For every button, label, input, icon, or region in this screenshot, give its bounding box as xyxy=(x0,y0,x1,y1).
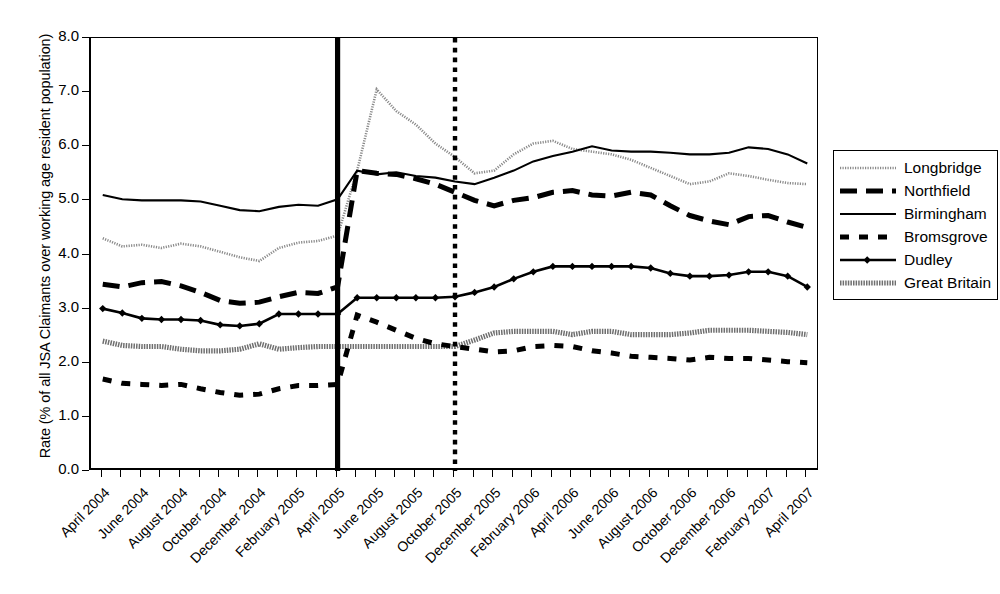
x-tick-mark xyxy=(707,470,708,477)
legend-item-northfield[interactable]: Northfield xyxy=(839,179,991,202)
x-tick-mark xyxy=(453,470,454,477)
x-tick-mark xyxy=(433,470,434,477)
y-tick-mark xyxy=(82,470,89,471)
data-point-marker xyxy=(608,263,615,270)
x-tick-mark xyxy=(355,470,356,477)
x-tick-mark xyxy=(786,470,787,477)
data-point-marker xyxy=(627,263,634,270)
data-point-marker xyxy=(197,317,204,324)
x-tick-mark xyxy=(336,470,337,477)
data-point-marker xyxy=(745,268,752,275)
x-tick-mark xyxy=(120,470,121,477)
legend-item-great-britain[interactable]: Great Britain xyxy=(839,271,991,294)
legend-swatch-icon xyxy=(839,184,897,198)
x-tick-mark xyxy=(629,470,630,477)
data-point-marker xyxy=(569,263,576,270)
x-tick-mark xyxy=(140,470,141,477)
y-tick-label: 4.0 xyxy=(31,244,79,261)
legend-swatch-icon xyxy=(839,253,897,267)
y-tick-mark xyxy=(82,91,89,92)
legend-swatch-icon xyxy=(839,161,897,175)
x-tick-mark xyxy=(159,470,160,477)
y-tick-mark xyxy=(82,145,89,146)
data-point-marker xyxy=(471,289,478,296)
x-tick-mark xyxy=(492,470,493,477)
x-tick-mark xyxy=(747,470,748,477)
legend-item-label: Great Britain xyxy=(904,275,991,291)
y-tick-label: 6.0 xyxy=(31,135,79,152)
x-tick-mark xyxy=(649,470,650,477)
x-tick-mark xyxy=(766,470,767,477)
data-point-marker xyxy=(764,268,771,275)
x-tick-mark xyxy=(570,470,571,477)
legend-item-label: Longbridge xyxy=(904,160,982,176)
data-point-marker xyxy=(432,294,439,301)
data-point-marker xyxy=(667,270,674,277)
data-point-marker xyxy=(236,322,243,329)
x-tick-mark xyxy=(688,470,689,477)
data-point-marker xyxy=(725,271,732,278)
legend-item-label: Dudley xyxy=(904,252,952,268)
data-point-marker xyxy=(706,272,713,279)
data-point-marker xyxy=(119,309,126,316)
x-tick-mark xyxy=(473,470,474,477)
y-tick-mark xyxy=(82,308,89,309)
y-tick-label: 1.0 xyxy=(31,406,79,423)
y-tick-mark xyxy=(82,416,89,417)
data-point-marker xyxy=(314,310,321,317)
x-tick-mark xyxy=(238,470,239,477)
legend-swatch-icon xyxy=(839,230,897,244)
y-tick-mark xyxy=(82,362,89,363)
data-point-marker xyxy=(158,316,165,323)
x-tick-mark xyxy=(257,470,258,477)
x-tick-mark xyxy=(414,470,415,477)
data-point-marker xyxy=(216,321,223,328)
y-tick-mark xyxy=(82,254,89,255)
x-tick-mark xyxy=(179,470,180,477)
legend-item-longbridge[interactable]: Longbridge xyxy=(839,156,991,179)
data-point-marker xyxy=(99,305,106,312)
data-point-marker xyxy=(549,263,556,270)
series-canvas xyxy=(91,38,820,471)
x-tick-mark xyxy=(805,470,806,477)
data-point-marker xyxy=(686,272,693,279)
legend-item-label: Birmingham xyxy=(904,206,987,222)
data-point-marker xyxy=(393,294,400,301)
data-point-marker xyxy=(530,268,537,275)
x-tick-mark xyxy=(296,470,297,477)
x-tick-mark xyxy=(668,470,669,477)
data-point-marker xyxy=(510,275,517,282)
data-point-marker xyxy=(647,264,654,271)
y-tick-label: 2.0 xyxy=(31,352,79,369)
legend-item-label: Bromsgrove xyxy=(904,229,988,245)
data-point-marker xyxy=(177,316,184,323)
y-tick-label: 5.0 xyxy=(31,189,79,206)
x-tick-mark xyxy=(199,470,200,477)
legend-swatch-icon xyxy=(839,207,897,221)
x-tick-mark xyxy=(277,470,278,477)
y-tick-label: 0.0 xyxy=(31,460,79,477)
legend-item-label: Northfield xyxy=(904,183,970,199)
x-tick-mark xyxy=(590,470,591,477)
legend-item-dudley[interactable]: Dudley xyxy=(839,248,991,271)
x-tick-mark xyxy=(531,470,532,477)
y-tick-label: 8.0 xyxy=(31,27,79,44)
x-tick-mark xyxy=(316,470,317,477)
x-tick-mark xyxy=(394,470,395,477)
x-tick-mark xyxy=(218,470,219,477)
x-tick-mark xyxy=(610,470,611,477)
data-point-marker xyxy=(295,310,302,317)
data-point-marker xyxy=(588,263,595,270)
chart-root: Rate (% of all JSA Claimants over workin… xyxy=(0,0,1000,594)
legend-item-birmingham[interactable]: Birmingham xyxy=(839,202,991,225)
x-tick-mark xyxy=(551,470,552,477)
data-point-marker xyxy=(412,294,419,301)
y-tick-mark xyxy=(82,199,89,200)
legend-swatch-icon xyxy=(839,276,897,290)
y-tick-mark xyxy=(82,37,89,38)
y-tick-label: 7.0 xyxy=(31,81,79,98)
y-tick-label: 3.0 xyxy=(31,298,79,315)
legend-item-bromsgrove[interactable]: Bromsgrove xyxy=(839,225,991,248)
plot-area xyxy=(89,37,818,470)
x-tick-mark xyxy=(101,470,102,477)
